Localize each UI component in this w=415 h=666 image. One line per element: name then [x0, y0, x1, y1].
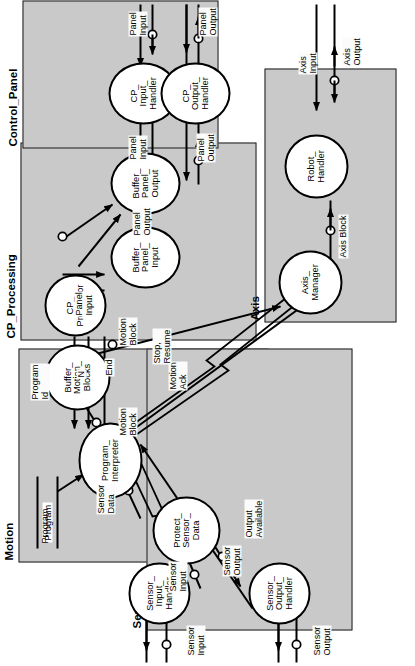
- flow-label-sensor-output-1: Sensor Output: [222, 545, 241, 576]
- diagram-canvas: Motion Sensors CP_Processing Control_Pan…: [0, 0, 415, 666]
- flow-label-axis-block: Axis Block: [338, 214, 348, 258]
- flow-label-sensor-input-1: Sensor Input: [168, 561, 187, 592]
- flow-label-motion-ack: Motion Ack: [168, 361, 187, 390]
- flow-label-program-id: Program Id: [30, 363, 49, 400]
- process-protect-sensor-data[interactable]: Protect_ Sensor_ Data: [152, 496, 220, 564]
- process-buffer-panel-output[interactable]: Buffer_ Panel_ Output: [110, 152, 180, 214]
- process-label-robot-handler: Robot_ Handler: [306, 150, 325, 183]
- flow-label-panel-output-ext: Panel Output: [198, 7, 217, 36]
- flow-label-stop-resume: Stop, Resume: [152, 328, 171, 364]
- flow-label-sensor-data: Sensor Data: [96, 483, 115, 514]
- flow-label-sensor-input-ext: Sensor Input: [186, 625, 205, 656]
- store-line-bottom: [56, 476, 58, 548]
- process-label-buffer-panel-input: Buffer_ Panel_ Input: [131, 242, 160, 272]
- process-label-sensor-output-handler: Sensor_ Output_ Handler: [265, 576, 294, 611]
- flow-label-panel-output-2: Panel Output: [196, 133, 215, 162]
- process-label-buffer-panel-output: Buffer_ Panel_ Output: [131, 168, 160, 198]
- flow-label-program: Program: [40, 507, 50, 544]
- process-axis-manager[interactable]: Axis_ Manager: [278, 250, 342, 314]
- flow-label-panel-input-1: Panel Input: [74, 291, 93, 316]
- flow-label-sensor-output-ext: Sensor Output: [312, 625, 331, 656]
- process-label-axis-manager: Axis_ Manager: [300, 264, 319, 301]
- process-label-program-interpreter: Program_ Interpreter: [100, 439, 119, 482]
- flow-label-n: N: [76, 369, 86, 378]
- store-line-top: [36, 476, 38, 548]
- flow-label-motion-block-1: Motion Block: [118, 407, 137, 436]
- process-label-protect-sensor-data: Protect_ Sensor_ Data: [172, 513, 201, 548]
- flow-label-end: End: [104, 358, 114, 376]
- process-cp-output-handler[interactable]: CP_ Output_ Handler: [160, 62, 230, 124]
- process-label-cp-input-handler: CP_ Input_ Handler: [129, 77, 158, 110]
- flow-label-motion-block-2: Motion Block: [118, 317, 137, 346]
- process-robot-handler[interactable]: Robot_ Handler: [284, 134, 348, 198]
- flow-label-axis-input-ext: Axis Input: [298, 52, 317, 74]
- flow-label-panel-input-ext: Panel Input: [128, 11, 147, 36]
- process-label-cp-output-handler: CP_ Output_ Handler: [181, 76, 210, 109]
- flow-label-panel-output-1: Panel Output: [132, 207, 151, 236]
- process-sensor-output-handler[interactable]: Sensor_ Output_ Handler: [248, 562, 310, 624]
- flow-label-axis-output-ext: Axis Output: [342, 37, 361, 66]
- diagram-rotated-layer: Motion Sensors CP_Processing Control_Pan…: [0, 0, 415, 666]
- flow-label-panel-input-2: Panel Input: [128, 135, 147, 160]
- flow-label-output-available: Output Available: [244, 499, 263, 538]
